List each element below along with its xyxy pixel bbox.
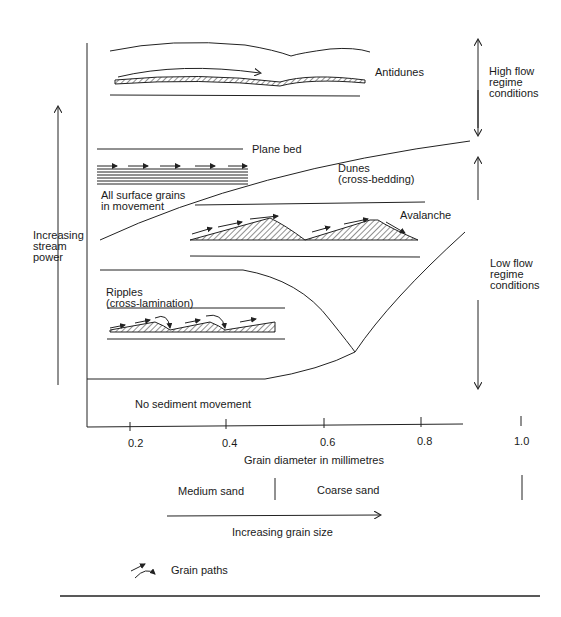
label-antidunes: Antidunes xyxy=(375,67,424,78)
label-all-surface: All surface grains in movement xyxy=(101,190,185,212)
tick-0.4: 0.4 xyxy=(222,438,237,449)
label-plane-bed: Plane bed xyxy=(252,144,302,155)
x-axis-label: Grain diameter in millimetres xyxy=(244,455,384,466)
label-medium-sand: Medium sand xyxy=(178,486,244,497)
label-increasing-grain-size: Increasing grain size xyxy=(232,527,333,538)
bedform-diagram xyxy=(0,0,561,617)
label-dunes: Dunes (cross-bedding) xyxy=(338,163,414,185)
label-coarse-sand: Coarse sand xyxy=(317,485,379,496)
grain-paths-icon xyxy=(131,564,155,578)
label-ripples: Ripples (cross-lamination) xyxy=(106,287,193,309)
legend-grain-paths: Grain paths xyxy=(171,565,228,576)
tick-0.6: 0.6 xyxy=(320,437,335,448)
tick-1.0: 1.0 xyxy=(514,436,529,447)
tick-0.2: 0.2 xyxy=(128,438,143,449)
x-axis-line xyxy=(87,424,463,427)
label-low-flow: Low flow regime conditions xyxy=(490,258,540,291)
label-no-movement: No sediment movement xyxy=(135,399,251,410)
label-stream-power: Increasing stream power xyxy=(33,230,84,263)
label-high-flow: High flow regime conditions xyxy=(489,66,539,99)
label-avalanche: Avalanche xyxy=(400,210,451,221)
tick-0.8: 0.8 xyxy=(417,436,432,447)
